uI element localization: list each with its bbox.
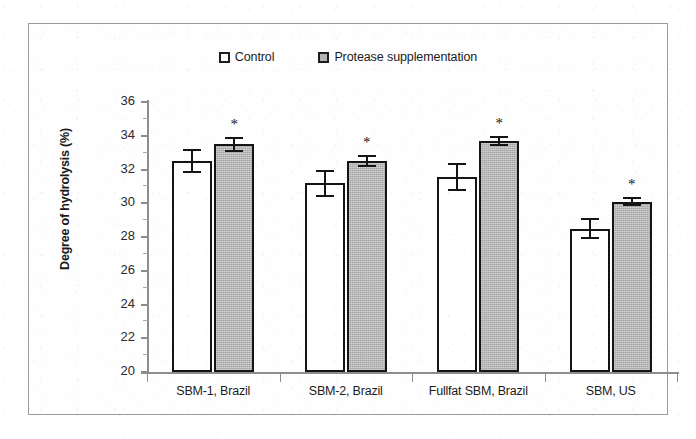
y-tick-label-22: 22 [99, 329, 135, 344]
y-tick-label-36: 36 [99, 93, 135, 108]
legend-label-control: Control [235, 50, 275, 64]
y-tick-22 [141, 337, 149, 339]
x-tick [280, 373, 281, 382]
y-tick-minor [143, 185, 148, 186]
y-tick-32 [141, 169, 149, 171]
y-tick-minor [143, 320, 148, 321]
y-tick-label-32: 32 [99, 161, 135, 176]
y-tick-label-28: 28 [99, 228, 135, 243]
error-bar-control-3 [448, 163, 466, 192]
y-tick-label-26: 26 [99, 262, 135, 277]
y-tick-minor [143, 118, 148, 119]
y-tick-minor [143, 287, 148, 288]
error-bar-protease-4 [623, 197, 641, 205]
significance-marker-1: * [225, 117, 243, 132]
x-tick [412, 373, 413, 382]
legend-item-protease: Protease supplementation [318, 50, 477, 64]
bar-control-4 [570, 229, 610, 372]
error-bar-protease-2 [358, 155, 376, 167]
y-tick-label-30: 30 [99, 194, 135, 209]
category-label-4: SBM, US [545, 384, 678, 398]
bar-protease-1 [214, 144, 254, 372]
legend-swatch-control-icon [219, 52, 230, 63]
y-tick-26 [141, 270, 149, 272]
y-tick-minor [143, 219, 148, 220]
y-tick-24 [141, 304, 149, 306]
error-cap-bottom [183, 171, 201, 173]
legend-swatch-protease-icon [318, 52, 329, 63]
chart-legend: Control Protease supplementation [29, 50, 667, 64]
y-tick-minor [143, 152, 148, 153]
error-cap-bottom [581, 237, 599, 239]
bar-protease-4 [612, 202, 652, 372]
category-label-1: SBM-1, Brazil [147, 384, 280, 398]
figure-frame: Control Protease supplementation Degree … [28, 23, 668, 415]
y-tick-label-24: 24 [99, 296, 135, 311]
y-tick-label-34: 34 [99, 127, 135, 142]
error-bar-control-2 [316, 170, 334, 197]
bar-control-2 [305, 183, 345, 372]
y-tick-28 [141, 236, 149, 238]
legend-label-protease: Protease supplementation [334, 50, 477, 64]
error-bar-protease-1 [225, 137, 243, 152]
error-bar-control-4 [581, 218, 599, 238]
bar-protease-3 [479, 141, 519, 372]
error-bar-protease-3 [490, 136, 508, 146]
x-tick [545, 373, 546, 382]
bar-control-1 [172, 161, 212, 372]
error-stem [456, 163, 458, 192]
bar-control-3 [437, 177, 477, 372]
legend-item-control: Control [219, 50, 275, 64]
y-tick-30 [141, 202, 149, 204]
x-axis-line [141, 372, 679, 374]
bar-protease-2 [347, 161, 387, 372]
y-tick-minor [143, 253, 148, 254]
significance-marker-2: * [358, 135, 376, 150]
y-tick-label-20: 20 [99, 363, 135, 378]
error-bar-control-1 [183, 149, 201, 173]
error-cap-bottom [623, 204, 641, 206]
error-cap-bottom [490, 144, 508, 146]
error-cap-bottom [316, 195, 334, 197]
error-stem [589, 218, 591, 238]
x-tick [677, 373, 678, 382]
x-tick [147, 373, 148, 382]
category-label-3: Fullfat SBM, Brazil [412, 384, 545, 398]
y-tick-34 [141, 135, 149, 137]
significance-marker-4: * [623, 177, 641, 192]
category-label-2: SBM-2, Brazil [280, 384, 413, 398]
y-tick-36 [141, 101, 149, 103]
error-cap-bottom [225, 150, 243, 152]
y-tick-minor [143, 354, 148, 355]
error-cap-bottom [448, 189, 466, 191]
significance-marker-3: * [490, 116, 508, 131]
y-axis-title: Degree of hydrolysis (%) [58, 119, 72, 279]
error-cap-bottom [358, 165, 376, 167]
error-stem [191, 149, 193, 173]
error-stem [324, 170, 326, 197]
